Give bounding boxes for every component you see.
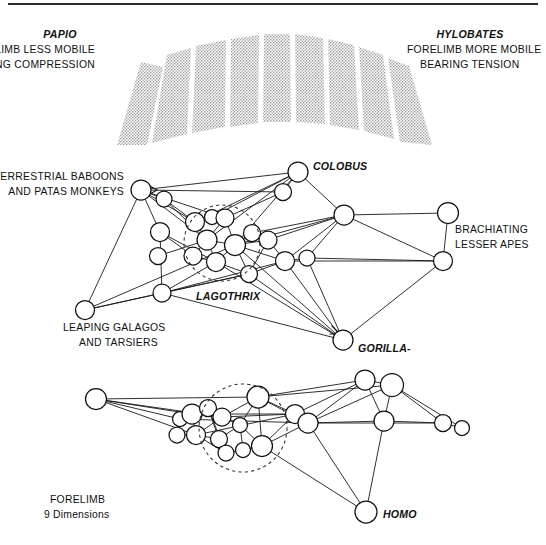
papio-line1: FORELIMB LESS MOBILE: [0, 44, 95, 55]
node-u3[interactable]: [150, 248, 167, 265]
fan-wedge-5: [263, 34, 291, 122]
terrestrial-baboons-line2: AND PATAS MONKEYS: [8, 186, 124, 197]
fan-wedge-2: [152, 48, 191, 143]
forelimb-network-figure: PAPIO FORELIMB LESS MOBILE BEARING COMPR…: [0, 0, 546, 545]
node-u9[interactable]: [216, 209, 234, 227]
colobus-label: COLOBUS: [313, 160, 367, 172]
node-lagothrix[interactable]: [241, 266, 258, 283]
node-u2[interactable]: [153, 284, 171, 302]
node-colobus[interactable]: [288, 162, 308, 182]
node-u22[interactable]: [438, 203, 459, 224]
node-l9[interactable]: [218, 445, 234, 461]
node-l16[interactable]: [355, 370, 375, 390]
node-l12[interactable]: [247, 386, 269, 408]
homo-label: HOMO: [383, 508, 417, 520]
papio-label: PAPIO: [43, 28, 77, 40]
stipple-fan: [117, 34, 432, 145]
fan-wedge-6: [295, 34, 325, 124]
node-u18[interactable]: [275, 184, 292, 201]
node-gorilla[interactable]: [333, 330, 353, 350]
node-l19[interactable]: [435, 415, 452, 432]
node-l10[interactable]: [236, 443, 251, 458]
fan-wedge-7: [328, 39, 359, 130]
node-l7[interactable]: [213, 408, 231, 426]
papio-line2: BEARING COMPRESSION: [0, 59, 95, 70]
hylobates-label: HYLOBATES: [436, 28, 503, 40]
node-l20[interactable]: [455, 421, 470, 436]
brachiating-line2: LESSER APES: [455, 239, 529, 250]
node-u11[interactable]: [225, 235, 246, 256]
hylobates-line2: BEARING TENSION: [420, 59, 519, 70]
node-u13[interactable]: [184, 247, 202, 265]
node-l13[interactable]: [252, 436, 273, 457]
lower-network: [86, 370, 470, 523]
node-u6[interactable]: [156, 191, 172, 207]
node-l1[interactable]: [86, 389, 107, 410]
node-u23[interactable]: [434, 252, 453, 271]
node-leaping-galagos[interactable]: [76, 301, 95, 320]
node-u4[interactable]: [151, 223, 170, 242]
hylobates-line1: FORELIMB MORE MOBILE: [407, 44, 541, 55]
lower-edges: [96, 380, 462, 512]
fan-wedge-3: [192, 40, 226, 133]
brachiating-line1: BRACHIATING: [455, 224, 528, 235]
node-u15[interactable]: [259, 231, 277, 249]
node-u7[interactable]: [186, 213, 205, 232]
forelimb-label: FORELIMB: [50, 494, 105, 505]
node-u10[interactable]: [197, 230, 217, 250]
terrestrial-baboons-line1: TERRESTRIAL BABOONS: [0, 171, 124, 182]
node-brachiating-lesser-apes[interactable]: [334, 205, 354, 225]
caption-left: PAPIO FORELIMB LESS MOBILE BEARING COMPR…: [0, 28, 95, 70]
node-u20[interactable]: [299, 250, 315, 266]
fan-wedge-4: [230, 35, 259, 127]
gorilla-label: GORILLA-: [358, 342, 411, 354]
leaping-line2: AND TARSIERS: [79, 337, 158, 348]
node-l11[interactable]: [233, 418, 248, 433]
dimensions-label: 9 Dimensions: [44, 509, 109, 520]
caption-right: HYLOBATES FORELIMB MORE MOBILE BEARING T…: [407, 28, 541, 70]
node-u12[interactable]: [207, 253, 226, 272]
node-l5[interactable]: [187, 426, 206, 445]
fan-wedge-9: [388, 58, 432, 145]
figure-root: PAPIO FORELIMB LESS MOBILE BEARING COMPR…: [0, 0, 546, 545]
lagothrix-label: LAGOTHRIX: [196, 290, 261, 302]
node-terrestrial-baboons[interactable]: [131, 180, 151, 200]
node-l15[interactable]: [298, 413, 318, 433]
node-l18[interactable]: [374, 411, 394, 431]
node-l17[interactable]: [381, 374, 404, 397]
node-homo[interactable]: [355, 501, 377, 523]
node-l4[interactable]: [169, 427, 185, 443]
lower-nodes: [86, 370, 470, 523]
node-u14[interactable]: [244, 225, 261, 242]
leaping-line1: LEAPING GALAGOS: [63, 322, 166, 333]
node-u19[interactable]: [276, 252, 295, 271]
